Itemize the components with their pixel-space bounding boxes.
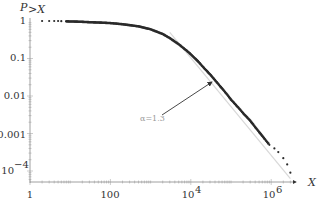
x-tick-1e6: 10 [263, 189, 276, 200]
y-tick-1: 1 [20, 15, 26, 26]
x-tick-1: 1 [27, 189, 33, 200]
y-tick-labels: 1 0.1 0.01 0.001 10 −4 [0, 15, 29, 176]
alpha-annotation-label: α=1.3 [140, 114, 165, 123]
x-tick-labels: 1 100 10 4 10 6 [27, 184, 283, 200]
ccdf-loglog-chart: 1 0.1 0.01 0.001 10 −4 1 100 10 4 10 6 P… [0, 0, 319, 222]
power-law-fit-line [170, 32, 291, 178]
x-axis [30, 179, 296, 185]
y-tick-0.01: 0.01 [4, 90, 26, 101]
x-tick-1e6-exponent: 6 [276, 184, 282, 195]
x-tick-1e4-exponent: 4 [195, 184, 201, 195]
y-tick-1e-4-exponent: −4 [14, 159, 29, 170]
data-points [41, 20, 291, 174]
annotation-arrow [162, 82, 212, 115]
y-tick-1e-4: 10 [1, 165, 14, 176]
y-axis-title: P [19, 1, 28, 14]
alpha-annotation: α=1.3 [140, 82, 212, 123]
x-tick-1e4: 10 [182, 189, 195, 200]
y-axis-title-subscript: >X [28, 3, 46, 16]
x-tick-100: 100 [100, 189, 119, 200]
y-tick-0.001: 0.001 [0, 129, 26, 140]
y-tick-0.1: 0.1 [10, 52, 26, 63]
x-axis-title: X [307, 176, 317, 189]
